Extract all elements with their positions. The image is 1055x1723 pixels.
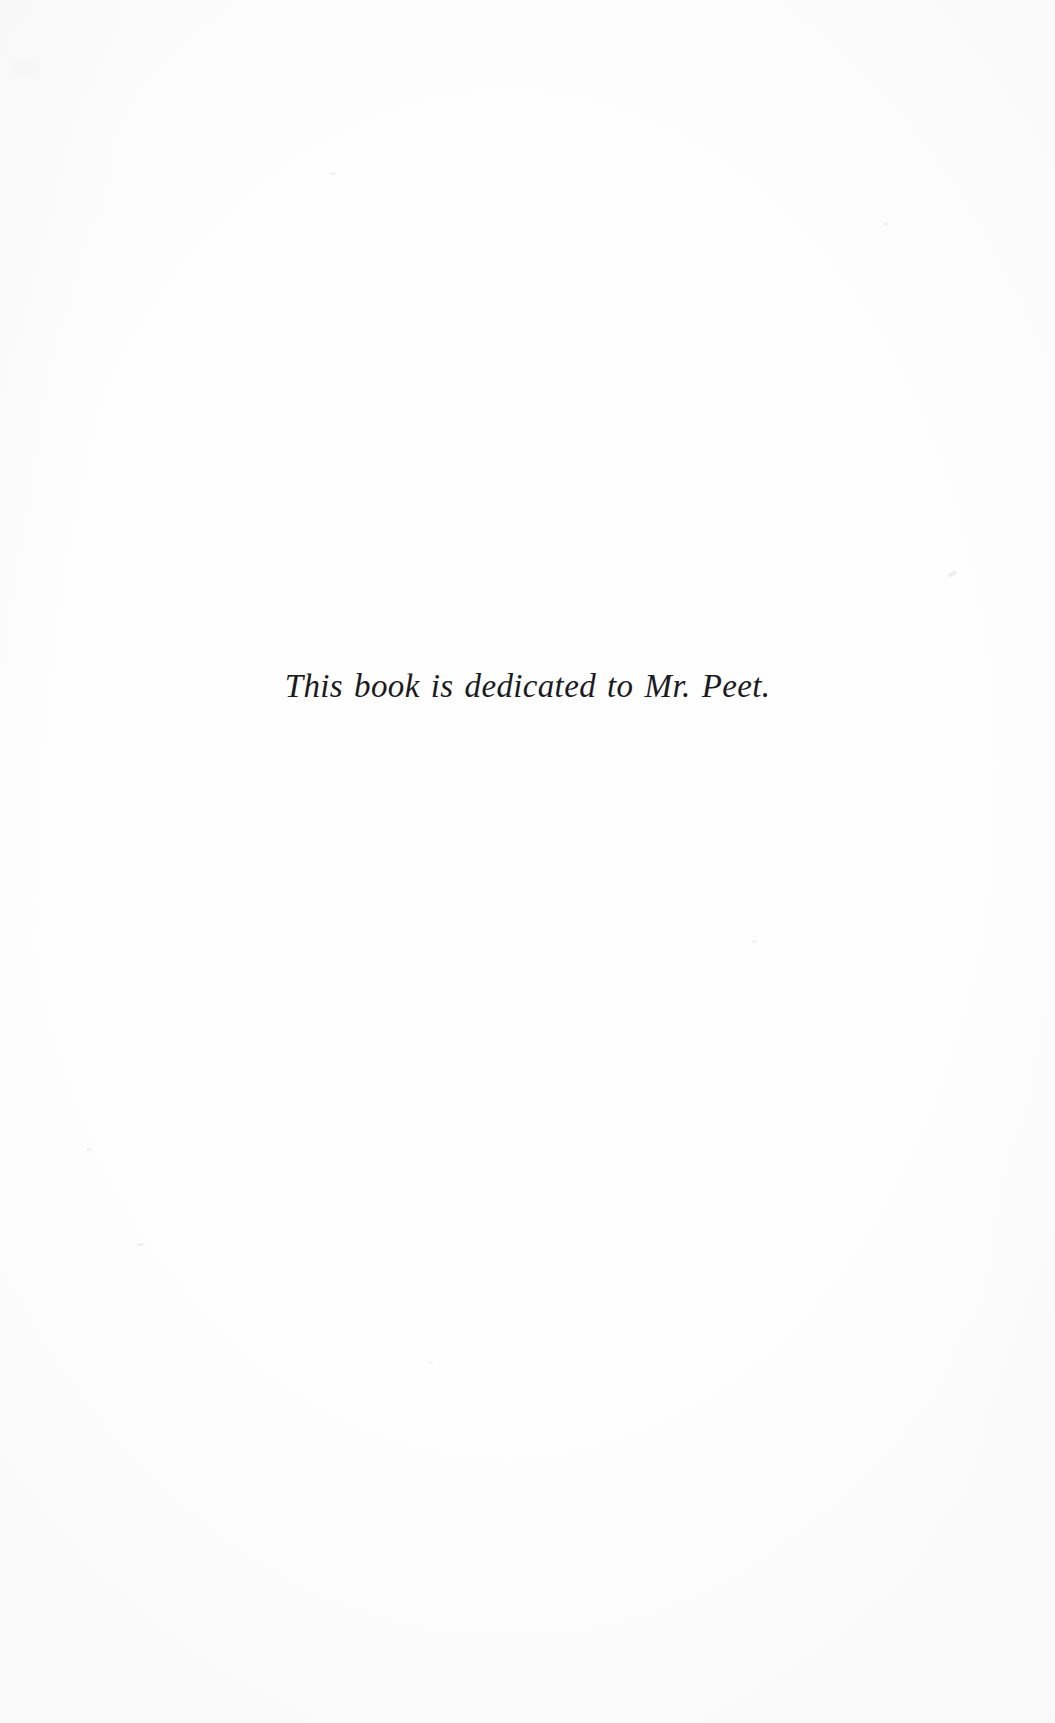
scan-speck — [948, 570, 958, 578]
scan-shading-overlay — [0, 0, 1055, 1723]
scan-speck — [330, 172, 336, 175]
scan-speck — [86, 1148, 92, 1151]
scanned-book-page: This book is dedicated to Mr. Peet. — [0, 0, 1055, 1723]
scan-speck — [428, 1361, 433, 1364]
scan-speck — [883, 222, 888, 226]
scan-speck — [752, 940, 757, 943]
scan-speck — [137, 1243, 144, 1246]
dedication-text: This book is dedicated to Mr. Peet. — [285, 664, 771, 708]
dedication-block: This book is dedicated to Mr. Peet. — [0, 664, 1055, 708]
scan-speck — [10, 60, 40, 76]
